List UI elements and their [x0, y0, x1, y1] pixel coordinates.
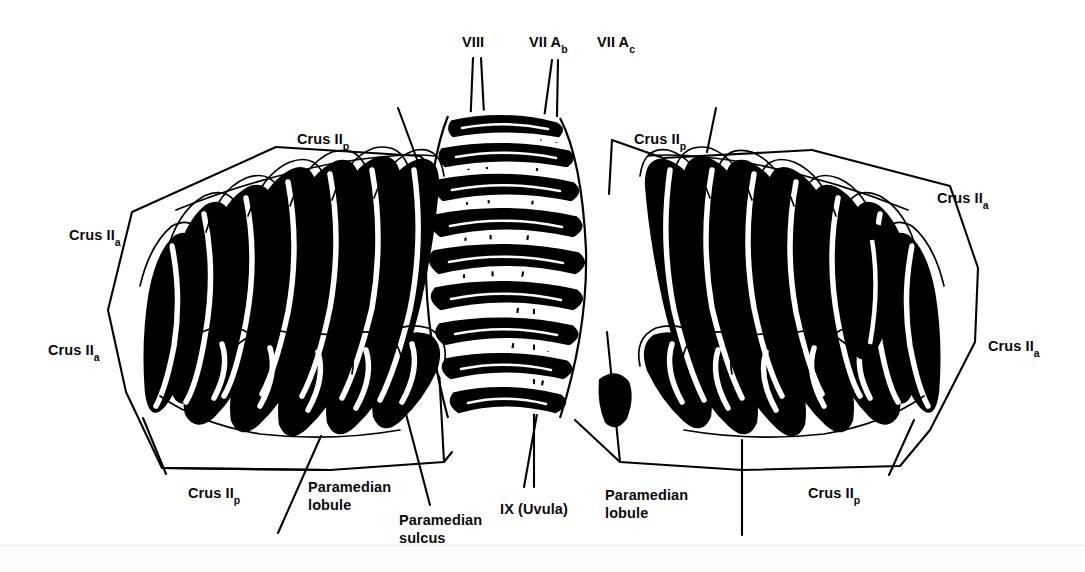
- label-vii-ab-subscript: b: [561, 43, 568, 55]
- subscript: p: [343, 140, 350, 152]
- cerebellum-figure: VIII VII Ab VII Ac Crus IIp Crus IIp Cru…: [0, 0, 1085, 572]
- label-crus2a-right-lower: Crus IIa: [988, 337, 1040, 358]
- label-vii-ab: VII Ab: [529, 33, 568, 54]
- subscript: p: [234, 494, 241, 506]
- subscript: a: [115, 236, 121, 248]
- label-crus2a-left-upper: Crus IIa: [69, 226, 121, 247]
- label-ix-uvula: IX (Uvula): [500, 500, 568, 518]
- page-bottom-band: [0, 545, 1085, 572]
- vermis-folium-9: [447, 384, 569, 416]
- label-paramedian-lobule-left: Paramedian lobule: [308, 479, 391, 514]
- subscript: a: [983, 199, 989, 211]
- subscript: p: [854, 494, 861, 506]
- vermis-folium-1: [445, 112, 565, 140]
- vermis-folium-2: [436, 140, 577, 170]
- label-paramedian-sulcus: Paramedian sulcus: [399, 512, 482, 547]
- subscript: a: [1034, 347, 1040, 359]
- label-crus2a-right-upper: Crus IIa: [937, 189, 989, 210]
- vermis-folium-3: [432, 171, 582, 204]
- subscript: a: [94, 351, 100, 363]
- label-crus2p-top-left: Crus IIp: [297, 130, 349, 151]
- label-vii-ac: VII Ac: [597, 33, 635, 54]
- cerebellum-illustration: [0, 0, 1085, 572]
- label-vii-ac-subscript: c: [629, 43, 635, 55]
- subscript: p: [680, 140, 687, 152]
- vermis-group: [426, 112, 588, 418]
- right-small-lobe-lower: [600, 374, 631, 426]
- label-paramedian-lobule-right: Paramedian lobule: [605, 487, 688, 522]
- vermis-folium-8: [439, 350, 575, 382]
- label-crus2p-bottom-left: Crus IIp: [188, 484, 240, 505]
- label-viii: VIII: [462, 33, 484, 51]
- label-crus2p-top-right: Crus IIp: [634, 130, 686, 151]
- label-crus2p-bottom-right: Crus IIp: [808, 484, 860, 505]
- label-crus2a-left-lower: Crus IIa: [48, 341, 100, 362]
